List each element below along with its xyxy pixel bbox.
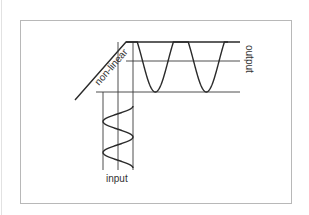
non-linear-label: non-linear: [92, 46, 130, 87]
output-clipped-wave: [126, 42, 228, 92]
input-label: input: [106, 173, 128, 184]
output-label: output: [244, 45, 255, 73]
diagram-canvas: non-linear output input: [0, 0, 309, 215]
